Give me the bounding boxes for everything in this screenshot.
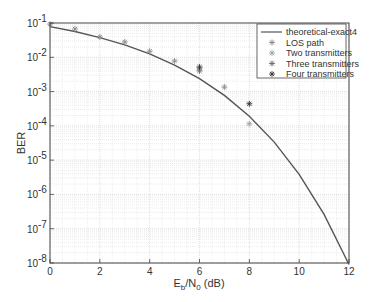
x-tick-label: 0 <box>47 266 53 277</box>
legend-label: theoretical-exact4 <box>286 27 357 37</box>
y-tick-exponent: -8 <box>38 253 47 264</box>
y-tick-label: 10 <box>27 121 39 132</box>
data-marker <box>72 26 78 32</box>
y-tick-label: 10 <box>27 52 39 63</box>
y-tick-exponent: -2 <box>38 47 47 58</box>
x-tick-label: 4 <box>147 266 153 277</box>
x-tick-label: 2 <box>97 266 103 277</box>
y-tick-exponent: -3 <box>38 82 47 93</box>
legend-star-icon <box>269 40 275 46</box>
legend-label: Two transmitters <box>286 48 353 58</box>
y-tick-exponent: -5 <box>38 150 47 161</box>
x-axis-label: Eb/N0 (dB) <box>173 277 224 292</box>
legend-star-icon <box>269 71 275 77</box>
y-axis-label: BER <box>15 132 27 155</box>
y-tick-label: 10 <box>27 224 39 235</box>
y-tick-label: 10 <box>27 18 39 29</box>
legend-label: LOS path <box>286 38 324 48</box>
y-tick-label: 10 <box>27 155 39 166</box>
y-tick-exponent: -4 <box>38 116 47 127</box>
y-tick-label: 10 <box>27 258 39 269</box>
y-tick-exponent: -1 <box>38 13 47 24</box>
legend-label: Three transmitters <box>286 59 360 69</box>
x-tick-label: 8 <box>247 266 253 277</box>
data-marker <box>197 64 203 70</box>
ber-chart: 024681012 10-110-210-310-410-510-610-710… <box>0 0 372 302</box>
y-tick-exponent: -7 <box>38 219 47 230</box>
y-tick-label: 10 <box>27 189 39 200</box>
y-tick-label: 10 <box>27 87 39 98</box>
x-tick-label: 6 <box>197 266 203 277</box>
legend-star-icon <box>269 61 275 67</box>
legend-label: Four transmitters <box>286 69 355 79</box>
data-marker <box>97 34 103 40</box>
x-tick-label: 10 <box>294 266 306 277</box>
data-marker <box>122 39 128 45</box>
x-tick-label: 12 <box>343 266 355 277</box>
legend-star-icon <box>269 50 275 56</box>
y-tick-exponent: -6 <box>38 184 47 195</box>
legend: theoretical-exact4LOS pathTwo transmitte… <box>257 24 360 79</box>
